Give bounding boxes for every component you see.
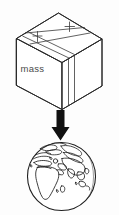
gravity-arrow-shape	[52, 110, 70, 141]
diagram-canvas: mass	[0, 0, 119, 215]
physics-diagram-mass-gravity-earth: mass	[0, 0, 119, 215]
cardboard-box: mass	[17, 13, 103, 110]
box-mass-label: mass	[21, 63, 45, 74]
earth-globe	[28, 143, 96, 211]
gravity-arrow	[52, 110, 70, 141]
